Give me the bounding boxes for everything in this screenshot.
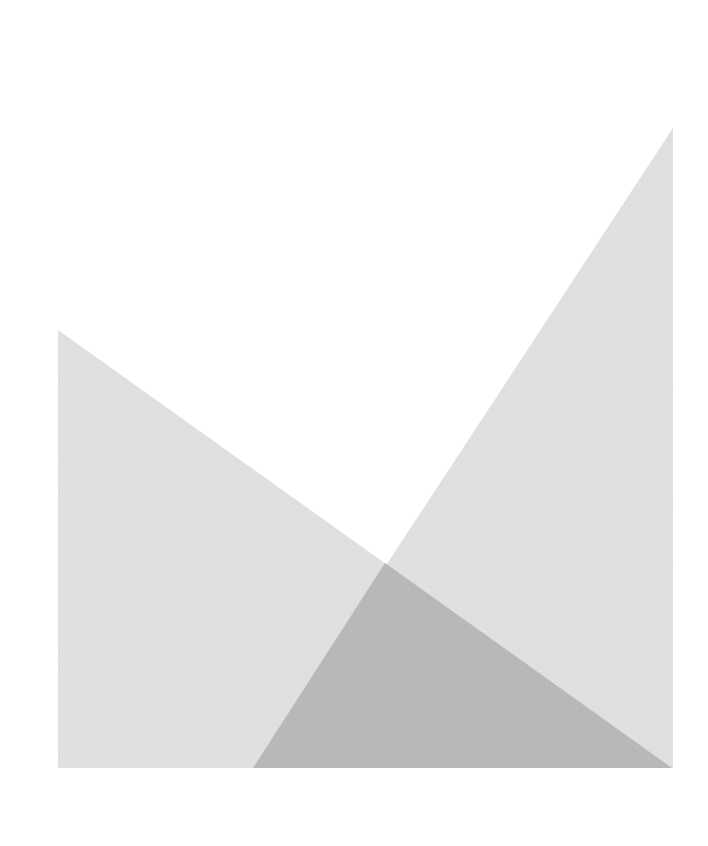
abstract-triangle-graphic [0,0,708,846]
